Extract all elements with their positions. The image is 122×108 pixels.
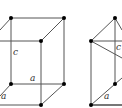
vertex xyxy=(62,16,66,20)
vertex xyxy=(9,82,13,86)
left-prism-vertices xyxy=(9,16,66,107)
crystal-lattice-diagram: c a a c a xyxy=(0,0,122,108)
vertex xyxy=(113,82,117,86)
vertex xyxy=(113,16,117,20)
label-c-left: c xyxy=(13,47,18,57)
vertex xyxy=(62,82,66,86)
edge xyxy=(115,18,122,30)
edge xyxy=(91,84,115,105)
edge xyxy=(41,84,64,105)
left-prism xyxy=(0,18,64,105)
label-a-left-back: a xyxy=(30,73,35,83)
edge xyxy=(41,18,64,41)
label-a-left-side: a xyxy=(1,91,6,101)
label-c-right: c xyxy=(116,42,121,52)
vertex xyxy=(89,39,93,43)
vertex xyxy=(9,16,13,20)
label-a-right: a xyxy=(104,91,109,101)
edge xyxy=(0,18,11,30)
vertex xyxy=(39,39,43,43)
edge xyxy=(91,18,115,41)
vertex xyxy=(89,103,93,107)
vertex xyxy=(39,103,43,107)
